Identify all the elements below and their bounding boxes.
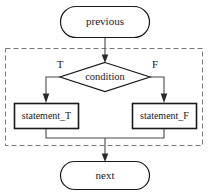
node-statement-false[interactable]: statement_F: [133, 104, 197, 129]
flowchart-diagram: previous condition T F statement_T state…: [0, 0, 209, 194]
node-previous[interactable]: previous: [61, 7, 150, 38]
connector-condition-true-to-statement-t: [43, 77, 60, 103]
node-statement-true-label: statement_T: [22, 110, 71, 121]
node-statement-true[interactable]: statement_T: [15, 104, 79, 129]
flowchart-svg: previous condition T F statement_T state…: [0, 0, 209, 194]
connector-condition-false-to-statement-f: [150, 77, 167, 103]
node-previous-label: previous: [86, 15, 124, 27]
node-next-label: next: [96, 169, 115, 181]
node-next[interactable]: next: [61, 162, 150, 190]
connector-previous-to-condition: [102, 38, 109, 63]
node-condition[interactable]: condition: [60, 63, 150, 92]
node-statement-false-label: statement_F: [140, 110, 189, 121]
node-condition-label: condition: [85, 71, 125, 82]
branch-label-false: F: [152, 58, 158, 70]
branch-label-true: T: [57, 58, 64, 70]
